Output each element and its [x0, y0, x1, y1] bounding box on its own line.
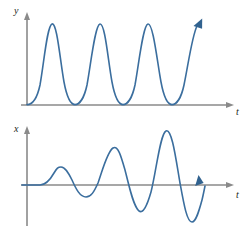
- x-axis: [24, 126, 30, 226]
- x-axis-arrowhead-icon: [24, 126, 30, 134]
- growing-oscillation-curve-group: [22, 131, 205, 222]
- x-axis-label: x: [14, 124, 18, 134]
- lower-panel-growing-oscillation-plot: [0, 0, 251, 231]
- y-axis-label: y: [14, 6, 18, 16]
- waveform-figure: y t x t: [0, 0, 251, 231]
- t-axis-arrowhead-icon-lower: [226, 182, 234, 188]
- t-axis-label-upper: t: [236, 107, 239, 117]
- growing-oscillation-curve: [22, 131, 205, 222]
- t-axis-label-lower: t: [236, 190, 239, 200]
